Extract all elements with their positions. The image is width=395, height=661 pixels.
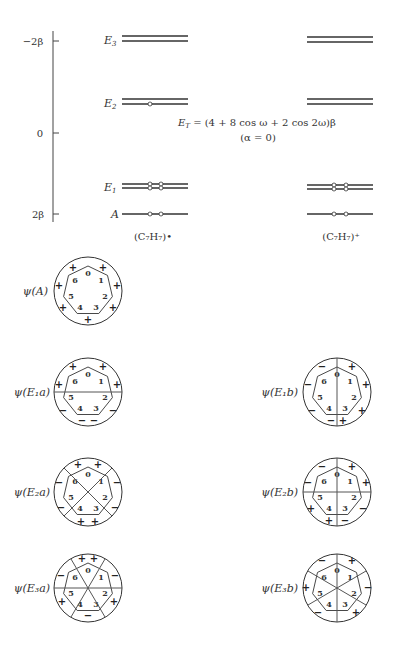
svg-text:+: + [339, 415, 347, 426]
svg-text:+: + [55, 280, 63, 291]
svg-text:−: − [304, 379, 312, 390]
svg-text:−: − [318, 555, 326, 566]
svg-text:−: − [111, 570, 119, 581]
energy-formula: ET = (4 + 8 cos ω + 2 cos 2ω)β [177, 117, 336, 130]
svg-text:+: + [113, 280, 121, 291]
svg-text:+: + [348, 461, 356, 472]
tick-minus-2beta: −2β [23, 36, 44, 47]
species-cation: (C₇H₇)⁺ [322, 231, 359, 242]
left-electrons [148, 102, 163, 216]
svg-text:+: + [110, 596, 118, 607]
label-E3: E3 [103, 34, 117, 48]
svg-text:+: + [77, 516, 85, 527]
orbital-E2b: −+−+ +−+− [303, 458, 371, 526]
orbital-E3a: ++−− ++− [54, 553, 122, 622]
svg-text:+: + [84, 314, 92, 325]
svg-text:+: + [352, 607, 360, 618]
svg-text:+: + [362, 379, 370, 390]
svg-text:−: − [304, 477, 312, 488]
energy-axis [53, 31, 59, 222]
label-psi-E1b: ψ(E₁b) [261, 386, 298, 399]
svg-text:−: − [55, 477, 63, 488]
svg-text:+: + [69, 361, 77, 372]
svg-text:+: + [99, 361, 107, 372]
svg-text:−: − [327, 415, 335, 426]
svg-text:−: − [90, 415, 98, 426]
svg-text:−: − [57, 502, 65, 513]
svg-text:+: + [59, 302, 67, 313]
svg-text:+: + [78, 553, 86, 564]
svg-text:−: − [314, 607, 322, 618]
orbital-E2a: ++−− −−++ [54, 458, 122, 527]
tick-zero: 0 [37, 128, 43, 139]
svg-text:−: − [318, 361, 326, 372]
tropylium-mo-diagram: −2β 0 2β E3 E2 E1 A ET = (4 + 8 cos ω + … [0, 0, 395, 661]
label-psi-E3a: ψ(E₃a) [14, 582, 50, 595]
svg-text:+: + [307, 503, 315, 514]
label-E2: E2 [103, 97, 117, 111]
svg-text:−: − [341, 515, 349, 526]
svg-text:+: + [58, 596, 66, 607]
svg-text:+: + [69, 262, 77, 273]
label-psi-A: ψ(A) [23, 285, 48, 298]
svg-text:+: + [302, 582, 310, 593]
svg-text:−: − [84, 610, 92, 621]
label-psi-E1a: ψ(E₁a) [14, 386, 50, 399]
svg-text:+: + [109, 302, 117, 313]
svg-text:+: + [55, 379, 63, 390]
svg-text:−: − [359, 503, 367, 514]
svg-text:−: − [111, 502, 119, 513]
svg-text:−: − [364, 582, 372, 593]
svg-text:+: + [348, 555, 356, 566]
species-radical: (C₇H₇)• [134, 231, 172, 242]
orbital-E1a: ++++ −−−− [54, 358, 122, 426]
svg-text:+: + [99, 262, 107, 273]
svg-text:−: − [78, 415, 86, 426]
svg-text:−: − [109, 405, 117, 416]
label-E1: E1 [103, 181, 117, 195]
label-psi-E3b: ψ(E₃b) [261, 582, 298, 595]
svg-text:+: + [74, 459, 82, 470]
orbital-A: ++++ +++ [54, 257, 122, 325]
svg-text:+: + [113, 379, 121, 390]
svg-text:+: + [90, 553, 98, 564]
svg-text:+: + [94, 459, 102, 470]
svg-text:−: − [308, 405, 316, 416]
svg-text:+: + [91, 516, 99, 527]
svg-text:−: − [59, 405, 67, 416]
label-psi-E2b: ψ(E₂b) [261, 486, 298, 499]
label-psi-E2a: ψ(E₂a) [14, 486, 50, 499]
svg-text:+: + [325, 515, 333, 526]
orbital-E1b: −+−+ −+−+ [303, 358, 371, 426]
right-electrons [332, 183, 348, 216]
orbital-E3b: −++− −+ [302, 554, 372, 622]
tick-2beta: 2β [32, 209, 44, 220]
svg-text:−: − [57, 570, 65, 581]
svg-text:−: − [318, 461, 326, 472]
svg-text:+: + [362, 477, 370, 488]
alpha-condition: (α = 0) [240, 132, 276, 143]
svg-text:−: − [113, 477, 121, 488]
svg-text:+: + [358, 405, 366, 416]
svg-text:+: + [348, 361, 356, 372]
label-A: A [110, 208, 119, 221]
